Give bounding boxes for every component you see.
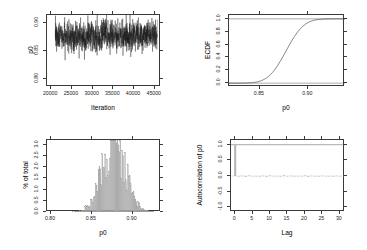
y-tickmark-right (344, 144, 347, 145)
y-tickmark-right (160, 189, 163, 190)
y-tick-label: 0.8 (216, 24, 221, 38)
x-tickmark-top (91, 136, 92, 139)
x-tick-label: 35000 (105, 91, 119, 96)
y-tick-label: 0.4 (216, 49, 221, 63)
x-tickmark-top (234, 136, 235, 139)
y-tickmark (225, 69, 228, 70)
acf-x-axis-title: Lag (281, 230, 292, 237)
x-tickmark-top (259, 11, 260, 14)
x-tickmark (252, 211, 253, 214)
y-tickmark-right (160, 166, 163, 167)
x-tickmark-top (307, 11, 308, 14)
y-tickmark-right (344, 82, 347, 83)
x-tickmark (71, 86, 72, 89)
x-tickmark (321, 211, 322, 214)
y-tick-label: 0.80 (34, 71, 39, 85)
x-tickmark-top (269, 136, 270, 139)
ecdf-x-axis-title: p0 (282, 105, 289, 112)
acf-bars (231, 140, 345, 212)
ecdf-curve (229, 15, 345, 87)
y-tickmark (43, 211, 46, 212)
x-tickmark-top (321, 136, 322, 139)
x-tick-label: 0.85 (86, 216, 96, 221)
histogram-panel: 0.800.850.900.00.51.01.52.02.53.0 % of t… (0, 125, 183, 250)
y-tickmark (43, 200, 46, 201)
x-tickmark-top (132, 136, 133, 139)
x-tickmark (234, 211, 235, 214)
acf-y-axis-title: Autocorrelation of p0 (197, 145, 204, 206)
histogram-bars (47, 140, 161, 212)
y-tickmark (227, 191, 230, 192)
x-tickmark (269, 211, 270, 214)
x-tickmark (50, 211, 51, 214)
y-tickmark-right (344, 31, 347, 32)
y-tick-label: 3.0 (34, 137, 39, 151)
x-tickmark-top (133, 11, 134, 14)
histogram-plot-area (46, 139, 160, 211)
y-tick-label: 0.85 (34, 43, 39, 57)
x-tick-label: 10 (266, 216, 272, 221)
y-tickmark (227, 144, 230, 145)
ecdf-y-axis-title: ECDF (205, 41, 212, 59)
x-tick-label: 25 (318, 216, 324, 221)
trace-panel: 2000025000300003500040000450000.800.850.… (0, 0, 183, 125)
y-tickmark-right (344, 44, 347, 45)
x-tickmark-top (252, 136, 253, 139)
diagnostic-figure: 2000025000300003500040000450000.800.850.… (0, 0, 367, 250)
x-tick-label: 0.85 (254, 91, 264, 96)
y-tickmark (227, 175, 230, 176)
x-tick-label: 0.80 (45, 216, 55, 221)
y-tickmark (43, 166, 46, 167)
y-tick-label: 0.5 (218, 152, 223, 166)
y-tickmark (43, 155, 46, 156)
y-tickmark-right (344, 206, 347, 207)
x-tickmark-top (304, 136, 305, 139)
y-tick-label: 1.0 (216, 11, 221, 25)
x-tickmark (91, 211, 92, 214)
y-tickmark (225, 31, 228, 32)
y-tickmark-right (160, 177, 163, 178)
trace-x-axis-title: Iteration (91, 105, 115, 112)
x-tickmark-top (339, 136, 340, 139)
y-tickmark-right (160, 50, 163, 51)
x-tickmark (339, 211, 340, 214)
x-tickmark (50, 86, 51, 89)
x-tick-label: 0 (233, 216, 236, 221)
x-tickmark (307, 86, 308, 89)
x-tick-label: 40000 (126, 91, 140, 96)
y-tickmark (43, 144, 46, 145)
x-tickmark-top (71, 11, 72, 14)
x-tick-label: 45000 (147, 91, 161, 96)
trace-plot-area (46, 14, 160, 86)
x-tickmark (286, 211, 287, 214)
y-tickmark-right (160, 211, 163, 212)
y-tickmark-right (160, 78, 163, 79)
x-tickmark-top (154, 11, 155, 14)
acf-panel: 051015202530-1.0-0.50.00.51.0 Autocorrel… (184, 125, 367, 250)
x-tickmark (304, 211, 305, 214)
x-tick-label: 30 (336, 216, 342, 221)
x-tick-label: 5 (250, 216, 253, 221)
x-tickmark (132, 211, 133, 214)
y-tickmark-right (160, 155, 163, 156)
histogram-x-axis-title: p0 (99, 230, 106, 237)
y-tick-label: 0.6 (216, 37, 221, 51)
x-tick-label: 20000 (43, 91, 57, 96)
y-tickmark (225, 18, 228, 19)
y-tickmark (43, 78, 46, 79)
y-tick-label: 0.90 (34, 15, 39, 29)
y-tickmark (225, 82, 228, 83)
ecdf-panel: 0.850.900.00.20.40.60.81.0 ECDF p0 (184, 0, 367, 125)
y-tickmark (227, 159, 230, 160)
y-tick-label: 0.0 (216, 75, 221, 89)
x-tick-label: 0.90 (302, 91, 312, 96)
y-tickmark (43, 189, 46, 190)
x-tickmark-top (50, 136, 51, 139)
y-tickmark (43, 50, 46, 51)
x-tickmark (154, 86, 155, 89)
acf-plot-area (230, 139, 344, 211)
y-tickmark-right (344, 69, 347, 70)
y-tickmark (225, 56, 228, 57)
x-tickmark-top (286, 136, 287, 139)
x-tick-label: 30000 (84, 91, 98, 96)
